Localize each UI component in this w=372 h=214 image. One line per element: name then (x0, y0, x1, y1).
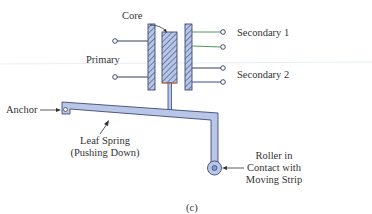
roller-label: Roller in Contact with Moving Strip (244, 150, 304, 186)
roller-label-line1: Roller in (244, 150, 304, 162)
primary-terminal-1 (113, 39, 118, 44)
leaf-spring-label: Leaf Spring (Pushing Down) (60, 135, 150, 159)
roller-axle (212, 166, 217, 171)
secondary1-label: Secondary 1 (237, 27, 289, 39)
secondary1-terminal-2 (221, 45, 226, 50)
secondary1-terminal-1 (221, 30, 226, 35)
anchor-arrowhead-icon (56, 108, 61, 112)
secondary2-terminal-2 (221, 80, 226, 85)
lvdt-diagram (0, 0, 372, 214)
primary-coil (148, 24, 155, 90)
anchor-label: Anchor (6, 104, 38, 116)
core (162, 32, 177, 83)
leaf-spring-pointer (100, 124, 107, 134)
primary-label: Primary (86, 54, 120, 66)
roller-arrowhead-icon (222, 166, 227, 170)
leaf-spring-label-line2: (Pushing Down) (60, 147, 150, 159)
secondary-wires (192, 30, 225, 85)
secondary2-label: Secondary 2 (237, 69, 289, 81)
roller-label-line2: Contact with (244, 162, 304, 174)
primary-terminal-2 (113, 75, 118, 80)
core-label: Core (122, 10, 142, 22)
figure-caption: (c) (186, 202, 198, 214)
leaf-spring-arrowhead-icon (104, 120, 109, 126)
secondary2-terminal-1 (221, 66, 226, 71)
secondary-coil (185, 24, 192, 90)
roller-label-line3: Moving Strip (244, 174, 304, 186)
anchor-pin (64, 108, 68, 112)
leaf-spring-label-line1: Leaf Spring (60, 135, 150, 147)
